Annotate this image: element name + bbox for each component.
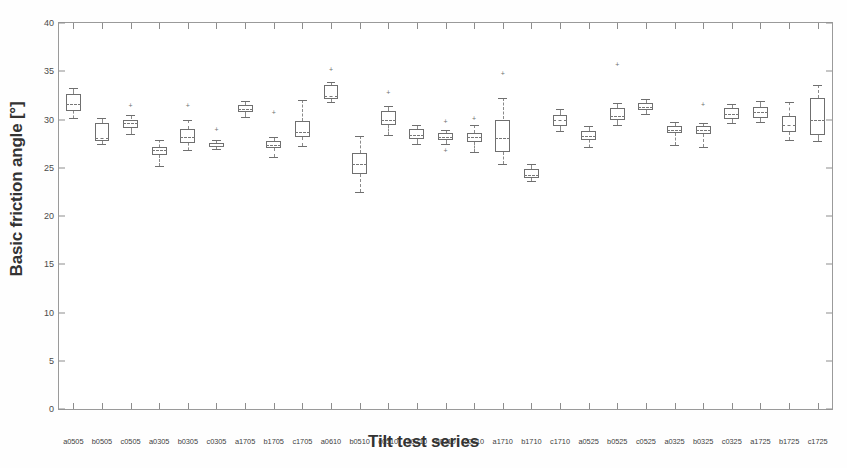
outlier-marker: + — [443, 147, 447, 154]
whisker-cap-upper — [641, 99, 650, 100]
x-tick-mark — [703, 23, 704, 29]
x-tick-mark — [818, 23, 819, 29]
whisker-cap-lower — [126, 134, 135, 135]
median-line — [95, 138, 110, 139]
median-line — [667, 130, 682, 131]
whisker-upper — [302, 100, 303, 121]
whisker-cap-lower — [327, 102, 336, 103]
y-tick-mark — [59, 264, 65, 265]
whisker-upper — [818, 85, 819, 99]
median-line — [553, 120, 568, 121]
outlier-marker: + — [615, 60, 619, 67]
whisker-lower — [789, 132, 790, 140]
x-tick-mark — [675, 403, 676, 409]
box-c1705 — [295, 121, 310, 136]
x-tick-mark — [245, 23, 246, 29]
y-tick-label: 20 — [44, 211, 54, 221]
y-tick-label: 0 — [49, 404, 54, 414]
y-tick-mark — [59, 71, 65, 72]
whisker-upper — [360, 136, 361, 153]
y-axis-title: Basic friction angle [°] — [4, 0, 30, 404]
y-tick-label: 5 — [49, 356, 54, 366]
x-tick-mark — [589, 403, 590, 409]
whisker-cap-upper — [126, 115, 135, 116]
whisker-cap-upper — [155, 140, 164, 141]
median-line — [610, 116, 625, 117]
x-tick-mark — [274, 23, 275, 29]
y-tick-label: 10 — [44, 308, 54, 318]
outlier-marker: + — [443, 118, 447, 125]
x-tick-mark — [388, 23, 389, 29]
x-tick-mark — [159, 403, 160, 409]
x-tick-mark — [302, 403, 303, 409]
whisker-cap-lower — [155, 166, 164, 167]
whisker-cap-upper — [813, 85, 822, 86]
median-line — [753, 112, 768, 113]
x-tick-mark — [589, 23, 590, 29]
y-tick-label: 35 — [44, 66, 54, 76]
x-tick-mark — [417, 403, 418, 409]
x-tick-mark — [159, 23, 160, 29]
whisker-cap-lower — [556, 131, 565, 132]
x-tick-mark — [446, 403, 447, 409]
whisker-upper — [73, 88, 74, 95]
x-tick-mark — [703, 403, 704, 409]
x-tick-mark — [675, 23, 676, 29]
median-line — [524, 175, 539, 176]
whisker-cap-lower — [785, 140, 794, 141]
whisker-cap-lower — [441, 144, 450, 145]
x-tick-mark — [760, 403, 761, 409]
whisker-cap-upper — [498, 98, 507, 99]
whisker-cap-lower — [527, 181, 536, 182]
median-line — [495, 138, 510, 139]
y-tick-label: 25 — [44, 163, 54, 173]
whisker-cap-lower — [355, 192, 364, 193]
median-line — [266, 145, 281, 146]
x-tick-mark — [818, 403, 819, 409]
whisker-cap-lower — [241, 117, 250, 118]
x-tick-mark — [102, 403, 103, 409]
median-line — [696, 130, 711, 131]
whisker-cap-lower — [670, 145, 679, 146]
median-line — [238, 109, 253, 110]
y-tick-label: 15 — [44, 259, 54, 269]
outlier-marker: + — [129, 102, 133, 109]
whisker-cap-upper — [412, 125, 421, 126]
x-tick-mark — [417, 23, 418, 29]
whisker-cap-upper — [670, 122, 679, 123]
whisker-cap-upper — [527, 164, 536, 165]
whisker-cap-upper — [183, 120, 192, 121]
x-tick-mark — [331, 403, 332, 409]
median-line — [352, 164, 367, 165]
median-line — [810, 120, 825, 121]
x-tick-mark — [360, 23, 361, 29]
x-tick-mark — [617, 23, 618, 29]
y-tick-mark — [826, 119, 832, 120]
y-tick-mark — [59, 167, 65, 168]
whisker-cap-lower — [813, 141, 822, 142]
x-tick-mark — [302, 23, 303, 29]
x-tick-mark — [216, 403, 217, 409]
x-tick-mark — [732, 403, 733, 409]
boxplot-figure: Basic friction angle [°] 051015202530354… — [0, 0, 847, 468]
median-line — [324, 96, 339, 97]
whisker-cap-lower — [183, 150, 192, 151]
median-line — [123, 123, 138, 124]
y-tick-mark — [826, 312, 832, 313]
whisker-upper — [159, 140, 160, 147]
whisker-upper — [503, 98, 504, 119]
whisker-cap-lower — [412, 144, 421, 145]
whisker-lower — [675, 133, 676, 145]
x-tick-mark — [617, 403, 618, 409]
median-line — [409, 135, 424, 136]
whisker-upper — [789, 102, 790, 116]
outlier-marker: + — [214, 126, 218, 133]
whisker-lower — [388, 125, 389, 135]
whisker-cap-upper — [69, 88, 78, 89]
whisker-cap-upper — [355, 136, 364, 137]
median-line — [180, 137, 195, 138]
whisker-cap-lower — [298, 146, 307, 147]
whisker-upper — [188, 120, 189, 129]
outlier-marker: + — [386, 89, 390, 96]
whisker-lower — [73, 111, 74, 118]
